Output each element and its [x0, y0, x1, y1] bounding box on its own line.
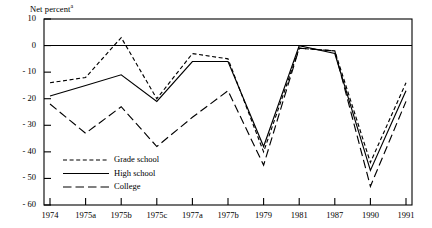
legend-label-college: College: [114, 181, 140, 191]
chart-plot-area: [0, 0, 432, 228]
y-axis-title: Net percenta: [30, 4, 73, 14]
x-axis-tick-label: 1974: [30, 210, 70, 220]
y-axis-tick-label: - 50: [10, 172, 36, 182]
x-axis-tick-label: 1977a: [172, 210, 212, 220]
y-axis-tick-label: - 40: [10, 146, 36, 156]
series-line-college: [50, 48, 406, 186]
x-axis-tick-label: 1977b: [208, 210, 248, 220]
y-axis-tick-label: 10: [10, 13, 36, 23]
legend-label-high-school: High school: [114, 168, 155, 178]
y-axis-title-superscript: a: [71, 3, 74, 9]
x-axis-tick-label: 1990: [350, 210, 390, 220]
chart-figure: Net percenta 100- 10- 20- 30- 40- 50- 60…: [0, 0, 432, 228]
y-axis-tick-label: - 60: [10, 199, 36, 209]
x-axis-tick-label: 1979: [244, 210, 284, 220]
x-axis-tick-label: 1991: [386, 210, 426, 220]
y-axis-tick-label: 0: [10, 40, 36, 50]
plot-frame: [44, 19, 412, 205]
x-axis-tick-label: 1975c: [137, 210, 177, 220]
x-axis-tick-label: 1975b: [101, 210, 141, 220]
y-axis-title-text: Net percent: [30, 4, 71, 14]
x-axis-tick-label: 1975a: [66, 210, 106, 220]
y-axis-tick-label: - 10: [10, 66, 36, 76]
x-axis-tick-label: 1981: [279, 210, 319, 220]
legend-label-grade-school: Grade school: [114, 154, 159, 164]
series-line-grade-school: [50, 38, 406, 163]
x-axis-tick-label: 1987: [315, 210, 355, 220]
y-axis-tick-label: - 20: [10, 93, 36, 103]
y-axis-tick-label: - 30: [10, 119, 36, 129]
